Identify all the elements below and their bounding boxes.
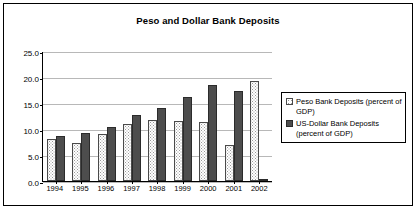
bar-peso-1998	[148, 120, 157, 181]
legend-item-peso: Peso Bank Deposits (percent of GDP)	[286, 97, 402, 116]
bar-group	[145, 52, 170, 181]
legend-swatch-peso-icon	[286, 98, 293, 105]
x-tick-label-2000: 2000	[195, 184, 221, 193]
bar-dollar-1998	[157, 108, 166, 181]
bar-dollar-2000	[208, 85, 217, 181]
y-tick-label: 10.0	[23, 127, 39, 136]
bar-peso-2002	[250, 81, 259, 181]
chart-legend: Peso Bank Deposits (percent of GDP) US-D…	[281, 92, 406, 143]
bar-peso-2000	[199, 122, 208, 181]
bar-dollar-1995	[81, 133, 90, 181]
y-tick-label: 25.0	[23, 49, 39, 58]
x-tick-label-1994: 1994	[42, 184, 68, 193]
chart-title: Peso and Dollar Bank Deposits	[4, 15, 412, 26]
bar-dollar-1997	[132, 115, 141, 181]
bar-dollar-1994	[56, 136, 65, 181]
bars-layer	[43, 52, 272, 181]
bar-group	[247, 52, 272, 181]
bar-peso-1996	[98, 134, 107, 181]
bar-group	[43, 52, 68, 181]
bar-group	[119, 52, 144, 181]
plot-area: 25.020.015.010.05.00.0	[42, 52, 272, 182]
bar-group	[221, 52, 246, 181]
bar-peso-2001	[225, 145, 234, 181]
y-tick-label: 20.0	[23, 75, 39, 84]
bar-group	[170, 52, 195, 181]
bar-group	[196, 52, 221, 181]
legend-label-peso: Peso Bank Deposits (percent of GDP)	[296, 97, 402, 116]
y-tick-label: 0.0	[28, 179, 39, 188]
chart-screenshot: Peso and Dollar Bank Deposits 25.020.015…	[0, 0, 416, 213]
x-axis-labels: 199419951996199719981999200020012002	[42, 184, 272, 193]
legend-item-dollar: US-Dollar Bank Deposits (percent of GDP)	[286, 119, 402, 138]
bar-dollar-1999	[183, 97, 192, 181]
x-tick-label-1995: 1995	[68, 184, 94, 193]
y-tick-label: 15.0	[23, 101, 39, 110]
bar-peso-1994	[47, 139, 56, 181]
legend-swatch-dollar-icon	[286, 120, 293, 127]
x-tick-label-2002: 2002	[247, 184, 273, 193]
bar-dollar-2002	[259, 179, 268, 181]
x-tick-label-1996: 1996	[93, 184, 119, 193]
bar-group	[94, 52, 119, 181]
legend-label-dollar: US-Dollar Bank Deposits (percent of GDP)	[296, 119, 402, 138]
chart-frame: Peso and Dollar Bank Deposits 25.020.015…	[3, 3, 413, 206]
bar-dollar-2001	[234, 91, 243, 181]
x-tick-label-2001: 2001	[221, 184, 247, 193]
y-tick-label: 5.0	[28, 153, 39, 162]
bar-dollar-1996	[107, 127, 116, 181]
bar-group	[68, 52, 93, 181]
x-tick-label-1999: 1999	[170, 184, 196, 193]
bar-peso-1997	[123, 124, 132, 181]
bar-peso-1999	[174, 121, 183, 181]
bar-peso-1995	[72, 143, 81, 181]
x-tick-label-1997: 1997	[119, 184, 145, 193]
x-tick-label-1998: 1998	[144, 184, 170, 193]
plot-wrapper: 25.020.015.010.05.00.0	[42, 48, 272, 182]
